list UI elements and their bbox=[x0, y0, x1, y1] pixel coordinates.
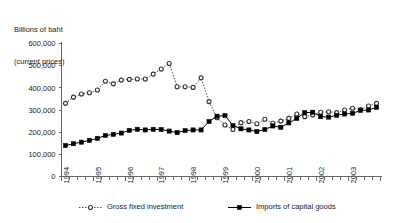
data-point-marker bbox=[199, 76, 203, 80]
data-point-marker bbox=[279, 119, 283, 123]
chart-legend: Gross fixed investmentImports of capital… bbox=[79, 202, 336, 211]
data-point-marker bbox=[319, 115, 323, 119]
data-point-marker bbox=[271, 124, 275, 128]
data-point-marker bbox=[327, 115, 331, 119]
data-point-marker bbox=[63, 143, 67, 147]
data-point-marker bbox=[143, 128, 147, 132]
data-point-marker bbox=[191, 128, 195, 132]
series-line bbox=[65, 63, 376, 129]
x-tick-label: 1997 bbox=[157, 167, 166, 184]
data-point-marker bbox=[79, 140, 83, 144]
data-point-marker bbox=[279, 125, 283, 129]
data-point-marker bbox=[207, 100, 211, 104]
y-tick-label: 0 bbox=[51, 172, 55, 181]
data-point-marker bbox=[103, 133, 107, 137]
data-point-marker bbox=[159, 127, 163, 131]
legend-label: Gross fixed investment bbox=[107, 202, 184, 211]
data-point-marker bbox=[191, 85, 195, 89]
data-point-marker bbox=[255, 129, 259, 133]
x-tick-label: 2000 bbox=[253, 167, 262, 184]
data-point-marker bbox=[303, 115, 307, 119]
data-point-marker bbox=[327, 110, 331, 114]
y-axis-ticks: 0100,000200,000300,000400,000500,000600,… bbox=[28, 39, 61, 181]
y-tick-label: 500,000 bbox=[28, 61, 55, 70]
data-point-marker bbox=[135, 127, 139, 131]
data-point-marker bbox=[71, 142, 75, 146]
chart-figure: Billions of baht (current prices) 0100,0… bbox=[0, 0, 400, 223]
data-point-marker bbox=[87, 138, 91, 142]
data-point-marker bbox=[319, 110, 323, 114]
y-tick-label: 400,000 bbox=[28, 84, 55, 93]
data-point-marker bbox=[335, 113, 339, 117]
data-point-marker bbox=[375, 101, 379, 105]
data-point-marker bbox=[311, 110, 315, 114]
data-point-marker bbox=[343, 108, 347, 112]
data-point-marker bbox=[119, 78, 123, 82]
y-tick-label: 300,000 bbox=[28, 106, 55, 115]
data-point-marker bbox=[358, 108, 362, 112]
data-point-marker bbox=[263, 127, 267, 131]
data-point-marker bbox=[263, 117, 267, 121]
data-point-marker bbox=[231, 123, 235, 127]
x-tick-label: 1996 bbox=[125, 167, 134, 184]
data-point-marker bbox=[135, 77, 139, 81]
chart-plot-area: 0100,000200,000300,000400,000500,000600,… bbox=[0, 0, 400, 223]
data-point-marker bbox=[159, 67, 163, 71]
data-point-marker bbox=[103, 79, 107, 83]
data-point-marker bbox=[367, 104, 371, 108]
series-gross-fixed-investment bbox=[63, 61, 378, 131]
x-tick-label: 2001 bbox=[285, 167, 294, 184]
data-point-marker bbox=[350, 111, 354, 115]
data-point-marker bbox=[111, 82, 115, 86]
data-point-marker bbox=[167, 61, 171, 65]
data-point-marker bbox=[63, 101, 67, 105]
x-tick-label: 1999 bbox=[221, 167, 230, 184]
data-point-marker bbox=[143, 77, 147, 81]
data-point-marker bbox=[119, 131, 123, 135]
data-point-marker bbox=[351, 106, 355, 110]
x-axis-ticks: 1994199519961997199819992000200120022003 bbox=[62, 167, 381, 184]
data-point-marker bbox=[374, 105, 378, 109]
data-point-marker bbox=[255, 122, 259, 126]
data-series-layer bbox=[63, 61, 378, 147]
data-point-marker bbox=[343, 112, 347, 116]
y-tick-label: 600,000 bbox=[28, 39, 55, 48]
data-point-marker bbox=[295, 112, 299, 116]
data-point-marker bbox=[87, 91, 91, 95]
data-point-marker bbox=[207, 119, 211, 123]
data-point-marker bbox=[175, 85, 179, 89]
data-point-marker bbox=[127, 77, 131, 81]
data-point-marker bbox=[151, 72, 155, 76]
x-tick-label: 1994 bbox=[62, 167, 71, 184]
data-point-marker bbox=[95, 88, 99, 92]
data-point-marker bbox=[111, 132, 115, 136]
data-point-marker bbox=[287, 116, 291, 120]
data-point-marker bbox=[247, 128, 251, 132]
x-tick-label: 1998 bbox=[189, 167, 198, 184]
data-point-marker bbox=[223, 113, 227, 117]
data-point-marker bbox=[199, 128, 203, 132]
data-point-marker bbox=[175, 131, 179, 135]
data-point-marker bbox=[167, 129, 171, 133]
data-point-marker bbox=[79, 92, 83, 96]
x-tick-label: 2003 bbox=[349, 167, 358, 184]
x-tick-label: 2002 bbox=[317, 167, 326, 184]
legend-label: Imports of capital goods bbox=[256, 202, 336, 211]
data-point-marker bbox=[127, 128, 131, 132]
data-point-marker bbox=[151, 127, 155, 131]
data-point-marker bbox=[223, 123, 227, 127]
data-point-marker bbox=[183, 85, 187, 89]
data-point-marker bbox=[239, 127, 243, 131]
data-point-marker bbox=[215, 114, 219, 118]
legend-item-imports-of-capital-goods: Imports of capital goods bbox=[228, 202, 336, 211]
data-point-marker bbox=[295, 116, 299, 120]
x-tick-label: 1995 bbox=[94, 167, 103, 184]
data-point-marker bbox=[95, 136, 99, 140]
legend-marker-sample bbox=[237, 205, 241, 209]
y-tick-label: 200,000 bbox=[28, 128, 55, 137]
data-point-marker bbox=[247, 120, 251, 124]
data-point-marker bbox=[303, 111, 307, 115]
data-point-marker bbox=[366, 108, 370, 112]
data-point-marker bbox=[183, 129, 187, 133]
data-point-marker bbox=[231, 128, 235, 132]
